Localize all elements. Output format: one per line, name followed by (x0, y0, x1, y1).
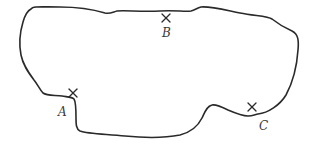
point-c-label: C (259, 120, 268, 132)
point-a-marker (69, 89, 77, 97)
point-b-marker (162, 14, 170, 22)
point-a-label: A (58, 106, 67, 118)
point-c-marker (248, 103, 256, 111)
point-b-label: B (162, 27, 171, 39)
